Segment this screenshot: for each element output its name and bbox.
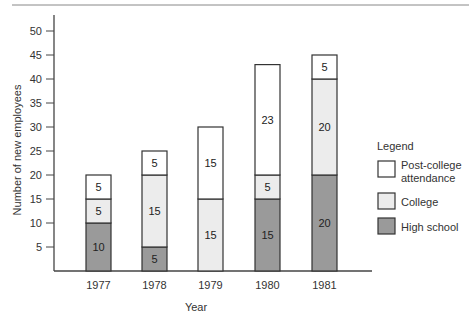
x-tick-label: 1977: [86, 279, 110, 291]
bar-1979: 1515: [198, 127, 223, 271]
bar-1978: 5155: [142, 151, 167, 271]
legend-swatch: [378, 193, 395, 209]
segment-value-label: 15: [204, 229, 216, 241]
legend-label: Post-college: [401, 159, 462, 171]
x-tick-label: 1978: [142, 279, 166, 291]
y-tick-label: 50: [30, 25, 42, 37]
legend: LegendPost-collegeattendanceCollegeHigh …: [377, 140, 462, 234]
legend-swatch: [378, 161, 395, 177]
y-tick-label: 25: [30, 145, 42, 157]
x-tick-label: 1979: [198, 279, 222, 291]
bar-1977: 1055: [86, 175, 111, 271]
segment-value-label: 5: [321, 61, 327, 73]
segment-value-label: 5: [264, 181, 270, 193]
y-tick-label: 15: [30, 193, 42, 205]
segment-value-label: 5: [95, 181, 101, 193]
bars: 1055197751551978151519791552319802020519…: [86, 55, 337, 291]
segment-value-label: 15: [148, 205, 160, 217]
y-axis-title: Number of new employees: [11, 84, 23, 215]
segment-value-label: 5: [151, 253, 157, 265]
bar-1980: 15523: [255, 65, 280, 271]
segment-value-label: 15: [204, 157, 216, 169]
segment-value-label: 15: [261, 229, 273, 241]
y-tick-label: 45: [30, 49, 42, 61]
segment-value-label: 5: [95, 205, 101, 217]
y-tick-label: 10: [30, 217, 42, 229]
legend-label: High school: [401, 221, 458, 233]
segment-value-label: 5: [151, 157, 157, 169]
stacked-bar-chart: 5101520253035404550 10551977515519781515…: [0, 0, 469, 320]
segment-value-label: 20: [318, 121, 330, 133]
y-tick-label: 20: [30, 169, 42, 181]
x-tick-label: 1981: [312, 279, 336, 291]
y-tick-label: 35: [30, 97, 42, 109]
y-tick-label: 5: [36, 241, 42, 253]
segment-value-label: 10: [92, 241, 104, 253]
legend-title: Legend: [377, 140, 414, 152]
segment-value-label: 23: [261, 114, 273, 126]
x-tick-label: 1980: [255, 279, 279, 291]
y-tick-label: 40: [30, 73, 42, 85]
legend-label: College: [401, 196, 438, 208]
y-tick-label: 30: [30, 121, 42, 133]
segment-value-label: 20: [318, 217, 330, 229]
legend-swatch: [378, 218, 395, 234]
bar-1981: 20205: [312, 55, 337, 271]
legend-label: attendance: [401, 172, 455, 184]
x-axis-title: Year: [185, 301, 208, 313]
